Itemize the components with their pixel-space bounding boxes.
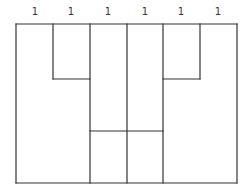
partition-diagram (0, 0, 247, 194)
